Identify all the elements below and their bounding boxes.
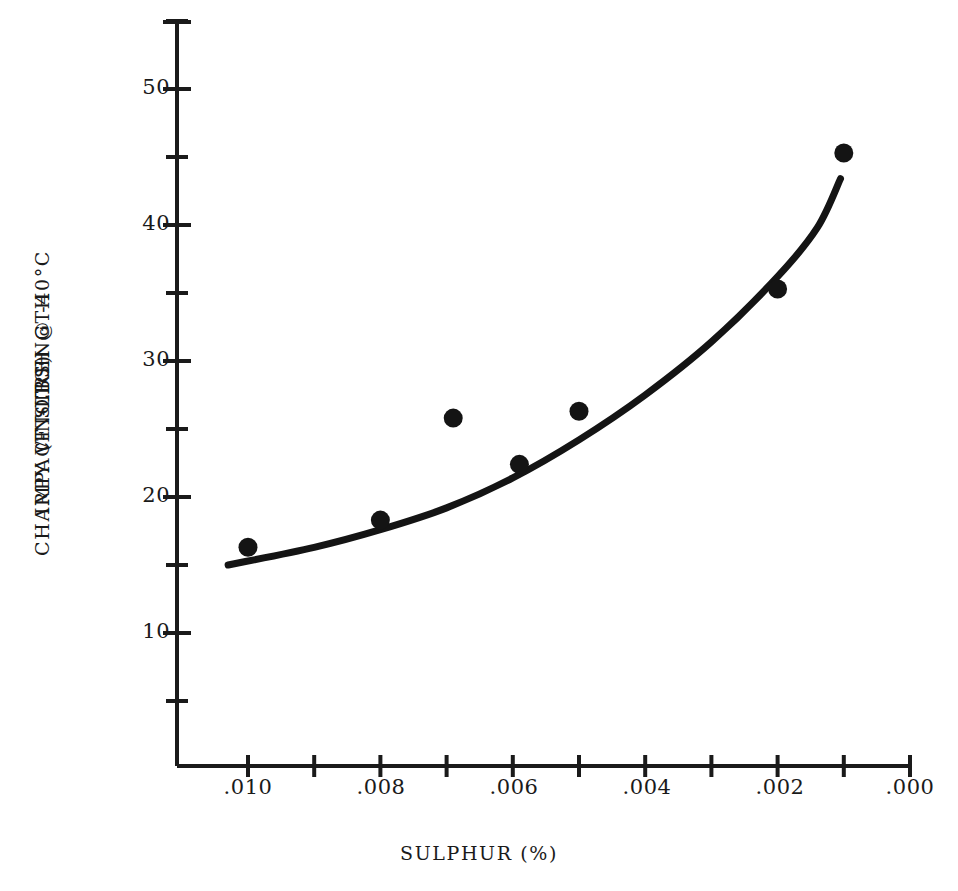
x-tick-label-000: .000 [865, 775, 955, 799]
data-point [239, 538, 258, 557]
data-point [768, 279, 787, 298]
trend-curve [228, 179, 840, 565]
y-tick-label-50: 50 [110, 75, 170, 99]
chart-figure: IMPACT STRENGTH CHARPY V-NOTCH @ -40°C (… [0, 0, 958, 891]
x-tick-label-004: .004 [602, 775, 692, 799]
x-tick-label-008: .008 [336, 775, 426, 799]
x-axis-title: SULPHUR (%) [0, 842, 958, 864]
data-point [834, 143, 853, 162]
data-point [444, 409, 463, 428]
data-point [371, 511, 390, 530]
x-tick-label-002: .002 [735, 775, 825, 799]
y-axis-title-line-3: (FT-LBS) [31, 271, 53, 535]
data-point-markers [239, 143, 854, 556]
y-tick-label-40: 40 [110, 211, 170, 235]
x-tick-label-010: .010 [203, 775, 293, 799]
plot-area [0, 0, 958, 891]
y-tick-label-20: 20 [110, 483, 170, 507]
data-point [510, 455, 529, 474]
y-tick-label-10: 10 [110, 619, 170, 643]
y-tick-label-30: 30 [110, 347, 170, 371]
x-tick-label-006: .006 [469, 775, 559, 799]
data-point [570, 402, 589, 421]
